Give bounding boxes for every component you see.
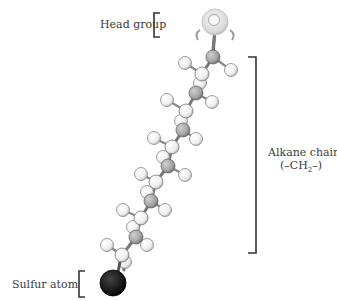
head-group-atom (196, 9, 233, 50)
alkane-chain-label: Alkane chain (–CH2–) (268, 146, 334, 177)
alkane-chain-bracket (248, 57, 256, 253)
sulfur-atom-bracket (79, 271, 85, 297)
sulfur-atom-label: Sulfur atom (12, 278, 78, 291)
head-group-label: Head group (100, 18, 166, 31)
sam-molecule-diagram: Head group Alkane chain (–CH2–) Sulfur a… (0, 0, 337, 301)
alkane-chain-formula: (–CH2–) (268, 159, 334, 177)
alkane-chain-title: Alkane chain (268, 146, 334, 159)
